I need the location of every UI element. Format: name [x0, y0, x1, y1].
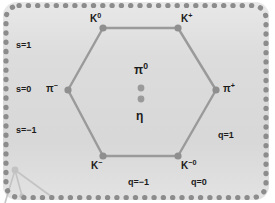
vertex-label-pi-minus: π− [46, 84, 58, 94]
vertex-label-k-minus: K− [91, 161, 102, 171]
vertex-label-pi-minus-sup: − [54, 81, 58, 90]
axis-label-charge-plus-1: q=1 [218, 131, 234, 140]
center-dot-pi-zero [138, 85, 145, 92]
vertex-dot-pi-plus [212, 86, 219, 93]
vertex-label-k-zero: K0 [90, 14, 101, 24]
vertex-label-k-minus-sup: − [98, 158, 102, 167]
vertex-label-pi-plus-sup: + [231, 81, 235, 90]
center-dot-eta [138, 96, 145, 103]
vertex-label-pi-plus-text: π [223, 83, 231, 94]
vertex-dot-k-zero-bar [174, 152, 181, 159]
vertex-dot-pi-minus [64, 86, 71, 93]
vertex-label-pi-plus: π+ [223, 84, 235, 94]
figure-root: s=1 s=0 s=−1 q=−1 q=0 q=1 K0 K+ π+ K−0 K… [0, 0, 275, 203]
vertex-label-k-zero-sup: 0 [97, 11, 101, 20]
vertex-label-k-plus: K+ [181, 14, 192, 24]
meson-octet-hexagon [0, 0, 275, 203]
axis-label-strangeness-zero: s=0 [16, 85, 31, 94]
axis-label-charge-zero: q=0 [191, 178, 207, 187]
center-label-pi-zero: π0 [134, 64, 148, 76]
vertex-dot-k-plus [174, 24, 181, 31]
vertex-label-k-plus-sup: + [188, 11, 192, 20]
vertex-label-k-zero-bar: K−0 [181, 161, 196, 171]
center-label-pi-zero-text: π [134, 63, 143, 77]
axis-label-strangeness-plus-1: s=1 [16, 41, 31, 50]
hexagon-outline [68, 28, 216, 156]
center-label-eta: η [136, 110, 143, 122]
vertex-dot-k-zero [99, 24, 106, 31]
vertex-label-k-zero-bar-sup: −0 [188, 158, 196, 167]
axis-label-strangeness-minus-1: s=−1 [16, 126, 37, 135]
center-label-pi-zero-sup: 0 [143, 61, 148, 71]
vertex-label-pi-minus-text: π [46, 83, 54, 94]
axis-label-charge-minus-1: q=−1 [128, 178, 149, 187]
